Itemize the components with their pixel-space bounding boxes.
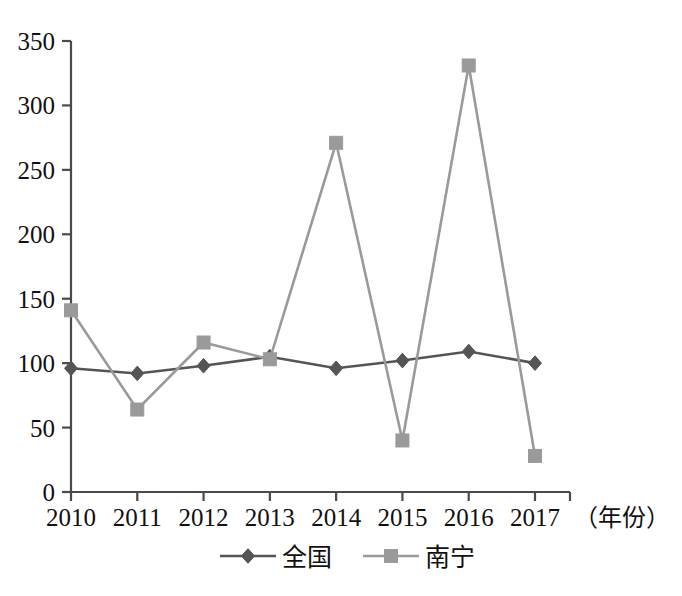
- data-point: [396, 353, 409, 368]
- series-nanning: [65, 59, 542, 462]
- data-point: [197, 336, 210, 349]
- data-point: [462, 344, 475, 359]
- x-tick-label-2016: 2016: [444, 504, 494, 531]
- legend-item-nanning[interactable]: 南宁: [363, 544, 475, 571]
- x-tick-label-2014: 2014: [311, 504, 362, 531]
- y-tick-label: 150: [18, 286, 56, 313]
- y-tick-label: 350: [18, 28, 56, 55]
- chart-canvas: 050100150200250300350 201020112012201320…: [0, 0, 682, 596]
- data-point: [462, 59, 475, 72]
- x-axis-ticks: 20102011201220132014201520162017: [46, 492, 570, 531]
- data-point: [131, 366, 144, 381]
- data-point: [65, 304, 78, 317]
- series-national: [65, 344, 542, 381]
- x-tick-label-2013: 2013: [245, 504, 295, 531]
- x-tick-label-2017: 2017: [510, 504, 560, 531]
- y-tick-label: 0: [43, 479, 56, 506]
- legend-marker-diamond: [242, 549, 255, 564]
- x-tick-label-2010: 2010: [46, 504, 96, 531]
- legend-label: 全国: [282, 544, 332, 571]
- y-tick-label: 300: [18, 92, 56, 119]
- legend-label: 南宁: [425, 544, 475, 571]
- data-point: [529, 449, 542, 462]
- series-line: [71, 65, 535, 455]
- data-point: [197, 358, 210, 373]
- data-point: [330, 136, 343, 149]
- data-point: [529, 356, 542, 371]
- data-point: [330, 361, 343, 376]
- data-series-layer: [65, 59, 542, 462]
- y-tick-label: 250: [18, 157, 56, 184]
- data-point: [263, 353, 276, 366]
- y-tick-label: 50: [30, 415, 55, 442]
- legend-marker-square: [385, 550, 398, 563]
- chart-legend: 全国南宁: [220, 544, 475, 571]
- y-tick-label: 200: [18, 221, 56, 248]
- legend-item-national[interactable]: 全国: [220, 544, 332, 571]
- x-tick-label-2015: 2015: [377, 504, 427, 531]
- y-axis-ticks: 050100150200250300350: [18, 28, 72, 506]
- x-axis-unit-label: （年份）: [574, 505, 670, 531]
- x-tick-label-2012: 2012: [179, 504, 229, 531]
- line-chart: 050100150200250300350 201020112012201320…: [0, 0, 682, 596]
- x-tick-label-2011: 2011: [113, 504, 162, 531]
- y-tick-label: 100: [18, 350, 56, 377]
- axis-lines: [71, 41, 570, 492]
- data-point: [396, 434, 409, 447]
- data-point: [131, 403, 144, 416]
